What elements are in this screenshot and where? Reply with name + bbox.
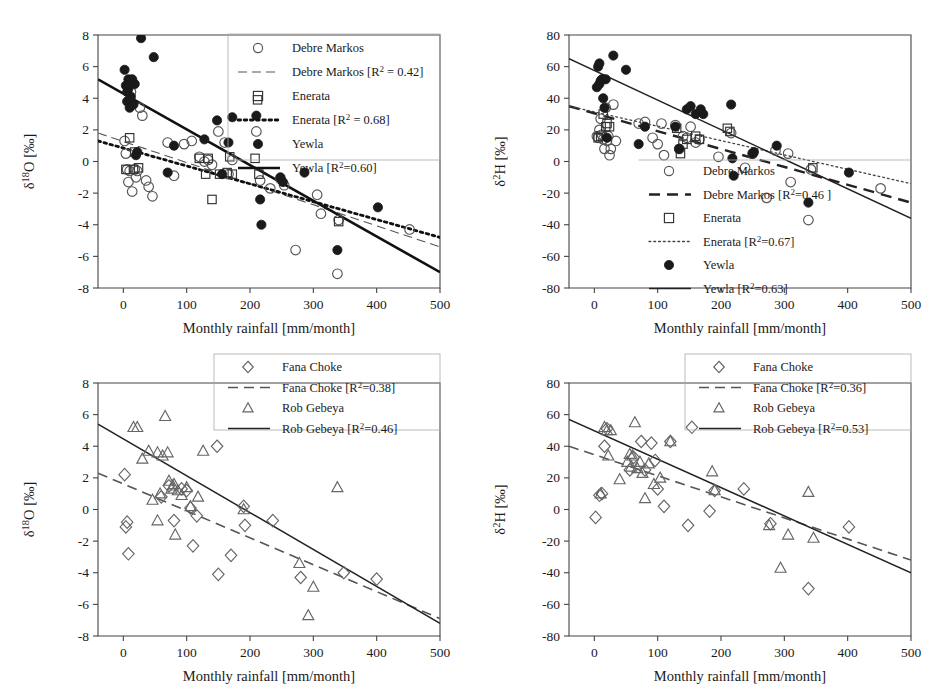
legend-marker-filled-circle: [664, 260, 673, 269]
data-point: [130, 79, 139, 88]
y-axis-title: δ18O [‰]: [20, 482, 37, 538]
data-point: [137, 453, 148, 463]
y-axis-title: δ2H [‰]: [491, 136, 508, 186]
y-tick-label: 8: [82, 28, 89, 43]
x-axis-title: Monthly rainfall [mm/month]: [183, 668, 355, 684]
x-tick-label: 0: [120, 645, 127, 660]
data-point: [303, 610, 314, 620]
data-point: [133, 147, 142, 156]
data-point: [333, 269, 343, 279]
y-tick-label: 20: [547, 470, 561, 485]
data-point: [614, 474, 625, 484]
data-point: [132, 422, 143, 432]
data-point: [707, 466, 718, 476]
data-point: [671, 122, 680, 131]
legend-label: Fana Choke: [753, 360, 814, 374]
legend: Debre MarkosDebre Markos [R2=0.46 ]Enera…: [639, 160, 911, 296]
data-point: [686, 421, 698, 434]
y-tick-label: 40: [547, 91, 561, 106]
data-point: [738, 483, 750, 496]
x-tick-label: 500: [901, 297, 922, 312]
data-point: [648, 133, 658, 143]
data-point: [214, 127, 224, 137]
data-point: [609, 51, 618, 60]
x-tick-label: 400: [367, 645, 388, 660]
x-tick-label: 0: [120, 297, 127, 312]
legend-marker-open-triangle: [714, 403, 724, 412]
data-point: [119, 468, 131, 481]
chart-panel-top-left: -8-6-4-2024680100200300400500Monthly rai…: [0, 0, 471, 347]
data-point: [148, 191, 158, 201]
y-tick-label: 60: [547, 407, 561, 422]
data-point: [128, 422, 139, 432]
data-point: [213, 568, 225, 581]
data-point: [211, 440, 223, 453]
y-tick-label: 8: [82, 376, 89, 391]
y-tick-label: 4: [82, 91, 89, 106]
x-tick-label: 500: [430, 297, 451, 312]
data-point: [200, 135, 209, 144]
data-point: [590, 511, 602, 524]
data-point: [675, 144, 684, 153]
legend-label: Fana Choke: [282, 360, 343, 374]
x-tick-label: 400: [838, 297, 859, 312]
data-point: [749, 147, 758, 156]
data-point: [602, 133, 611, 142]
x-axis-title: Monthly rainfall [mm/month]: [183, 320, 355, 336]
y-tick-label: 0: [553, 502, 560, 517]
legend-marker-open-circle: [253, 43, 262, 52]
data-point: [312, 190, 322, 200]
data-point: [129, 100, 138, 109]
data-point: [686, 122, 696, 132]
data-point: [149, 53, 158, 62]
y-tick-label: 20: [547, 122, 561, 137]
data-point: [257, 220, 266, 229]
data-point: [163, 168, 172, 177]
legend-marker-open-circle: [664, 166, 673, 175]
y-tick-label: -60: [542, 597, 560, 612]
data-point: [218, 170, 227, 179]
legend-marker-open-diamond: [714, 361, 725, 373]
data-point: [783, 529, 794, 539]
data-point: [152, 515, 163, 525]
legend: Fana ChokeFana Choke [R2=0.36]Rob Gebeya…: [685, 354, 911, 436]
data-point: [605, 150, 615, 160]
legend-label: Yewla: [703, 258, 735, 272]
data-point: [144, 182, 154, 192]
legend-label: Debre Markos [R2 = 0.42]: [292, 64, 423, 79]
data-point: [727, 100, 736, 109]
x-axis-title: Monthly rainfall [mm/month]: [654, 668, 826, 684]
y-tick-label: -2: [78, 186, 89, 201]
legend-label: Rob Gebeya: [753, 401, 816, 415]
data-point: [599, 94, 608, 103]
y-tick-label: -6: [78, 597, 89, 612]
data-point: [334, 215, 344, 225]
chart-panel-top-right: -80-60-40-200204060800100200300400500Mon…: [471, 0, 942, 347]
x-axis-title: Monthly rainfall [mm/month]: [654, 320, 826, 336]
data-point: [629, 417, 640, 427]
data-point: [170, 529, 181, 539]
data-point: [601, 75, 610, 84]
data-point: [844, 168, 853, 177]
panel-br-svg: -80-60-40-200204060800100200300400500Mon…: [471, 348, 942, 695]
data-point: [595, 59, 604, 68]
data-point: [267, 514, 279, 527]
trendline: [98, 79, 440, 272]
data-point: [808, 532, 819, 542]
y-tick-label: 2: [82, 122, 89, 137]
y-axis-title: δ2H [‰]: [491, 484, 508, 534]
x-tick-label: 500: [430, 645, 451, 660]
data-point: [657, 119, 667, 129]
data-point: [728, 154, 737, 163]
y-tick-label: -80: [542, 281, 560, 296]
data-point: [699, 109, 708, 118]
y-tick-label: 6: [82, 407, 89, 422]
legend-marker-open-triangle: [243, 403, 253, 412]
legend-marker-open-diamond: [243, 361, 254, 373]
y-tick-label: -8: [78, 281, 89, 296]
trendline: [98, 141, 440, 237]
y-tick-label: 40: [547, 439, 561, 454]
legend-label: Enerata [R2=0.67]: [703, 234, 794, 249]
data-point: [127, 187, 137, 197]
data-point: [187, 540, 199, 553]
